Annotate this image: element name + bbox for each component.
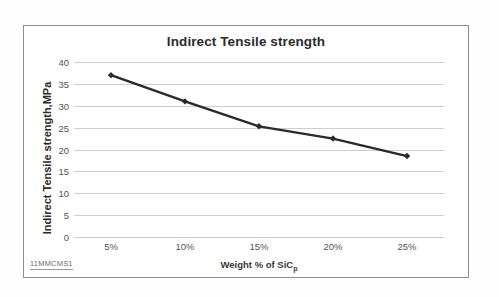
x-axis-tick-label: 10% — [175, 241, 194, 252]
data-series-line — [74, 62, 444, 237]
gridline — [74, 237, 444, 238]
data-point-marker — [256, 123, 262, 129]
y-axis-tick-label: 20 — [58, 144, 69, 155]
x-axis-tick-label: 15% — [249, 241, 268, 252]
chart-frame: Indirect Tensile strength Indirect Tensi… — [23, 25, 469, 278]
data-point-marker — [182, 98, 188, 104]
x-axis-title-text: Weight % of SiC — [221, 259, 294, 270]
y-axis-tick-label: 10 — [58, 188, 69, 199]
x-axis-title-subscript: p — [293, 265, 297, 272]
x-axis-tick-label: 5% — [104, 241, 118, 252]
y-axis-tick-label: 25 — [58, 122, 69, 133]
plot-area: 4035302520151050 — [74, 62, 444, 237]
data-point-marker — [330, 135, 336, 141]
chart-page: Indirect Tensile strength Indirect Tensi… — [0, 0, 499, 297]
series-line — [111, 75, 407, 156]
chart-title: Indirect Tensile strength — [24, 34, 468, 49]
y-axis-tick-label: 35 — [58, 78, 69, 89]
y-axis-title: Indirect Tensile strength,MPa — [41, 70, 56, 246]
x-axis-tick-label: 20% — [323, 241, 342, 252]
x-axis-tick-labels: 5%10%15%20%25% — [74, 241, 444, 255]
y-axis-tick-label: 30 — [58, 100, 69, 111]
data-point-marker — [108, 72, 114, 78]
y-axis-tick-label: 0 — [64, 232, 69, 243]
data-point-marker — [404, 153, 410, 159]
x-axis-title: Weight % of SiCp — [74, 259, 444, 272]
x-axis-tick-label: 25% — [397, 241, 416, 252]
y-axis-tick-label: 5 — [64, 210, 69, 221]
y-axis-tick-label: 15 — [58, 166, 69, 177]
y-axis-tick-label: 40 — [58, 57, 69, 68]
figure-caption: 11MMCMS1 — [30, 259, 73, 270]
